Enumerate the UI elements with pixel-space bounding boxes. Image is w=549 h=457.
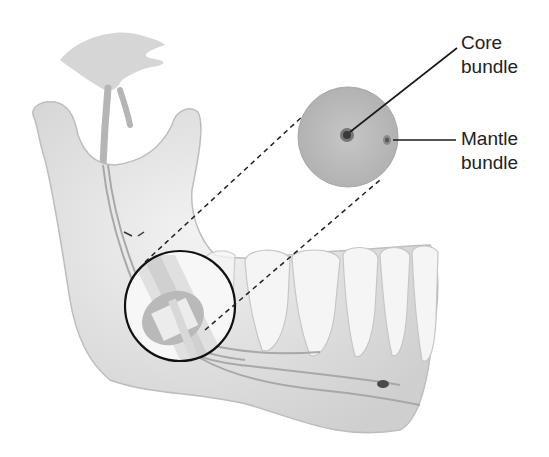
mantle-label-line1: Mantle	[461, 127, 518, 151]
core-label-line1: Core	[461, 31, 518, 55]
nerve-cross-section	[298, 87, 398, 187]
core-label-line2: bundle	[461, 55, 518, 79]
mental-foramen	[377, 380, 389, 388]
mantle-bundle-label: Mantle bundle	[461, 127, 518, 175]
core-bundle-label: Core bundle	[461, 31, 518, 79]
mantle-label-line2: bundle	[461, 151, 518, 175]
